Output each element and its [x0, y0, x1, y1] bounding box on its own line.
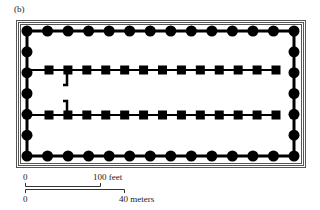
inner-column: [45, 66, 54, 75]
column: [42, 151, 53, 162]
column: [22, 88, 33, 99]
column: [186, 26, 197, 37]
peristyle-columns: [22, 26, 300, 162]
inner-column: [215, 66, 224, 75]
column: [22, 26, 33, 37]
column: [289, 46, 300, 57]
scale-bar: [26, 183, 125, 193]
inner-column: [158, 111, 167, 120]
inner-column: [234, 111, 243, 120]
scale-bar-feet: [26, 183, 101, 187]
column: [83, 26, 94, 37]
column: [22, 67, 33, 78]
column: [83, 151, 94, 162]
scale-meters-end: 40 meters: [119, 194, 154, 204]
column: [165, 26, 176, 37]
scale-feet-start: 0: [23, 172, 28, 182]
inner-column: [158, 66, 167, 75]
inner-column: [45, 111, 54, 120]
column: [22, 46, 33, 57]
column: [289, 67, 300, 78]
column: [289, 88, 300, 99]
column: [104, 26, 115, 37]
inner-column: [196, 111, 205, 120]
column: [289, 26, 300, 37]
inner-column: [253, 111, 262, 120]
inner-column: [177, 66, 186, 75]
column: [186, 151, 197, 162]
scale-meters-start: 0: [23, 194, 28, 204]
column: [145, 151, 156, 162]
column: [247, 151, 258, 162]
column: [145, 26, 156, 37]
column: [247, 26, 258, 37]
inner-columns: [45, 66, 281, 120]
inner-column: [215, 111, 224, 120]
inner-column: [253, 66, 262, 75]
inner-column: [101, 66, 110, 75]
temple-floor-plan: [0, 0, 320, 210]
inner-column: [139, 66, 148, 75]
column: [268, 151, 279, 162]
scale-feet-end: 100 feet: [93, 172, 122, 182]
inner-column: [177, 111, 186, 120]
column: [206, 151, 217, 162]
column: [63, 151, 74, 162]
column: [22, 151, 33, 162]
inner-column: [82, 111, 91, 120]
column: [206, 26, 217, 37]
peristyle-beams: [27, 31, 294, 156]
column: [124, 26, 135, 37]
column: [289, 109, 300, 120]
inner-column: [120, 66, 129, 75]
inner-column: [234, 66, 243, 75]
inner-column: [120, 111, 129, 120]
inner-rows-beams: [27, 70, 276, 115]
column: [289, 130, 300, 141]
column: [63, 26, 74, 37]
column: [227, 26, 238, 37]
column: [124, 151, 135, 162]
column: [289, 151, 300, 162]
column: [227, 151, 238, 162]
column: [268, 26, 279, 37]
column: [42, 26, 53, 37]
inner-column: [272, 66, 281, 75]
inner-column: [139, 111, 148, 120]
scale-bar-meters: [26, 190, 125, 194]
cella-door-jambs: [63, 70, 67, 115]
column: [165, 151, 176, 162]
inner-column: [101, 111, 110, 120]
stylobate-frame: [17, 21, 306, 168]
column: [22, 130, 33, 141]
column: [104, 151, 115, 162]
inner-column: [196, 66, 205, 75]
inner-column: [272, 111, 281, 120]
inner-column: [82, 66, 91, 75]
